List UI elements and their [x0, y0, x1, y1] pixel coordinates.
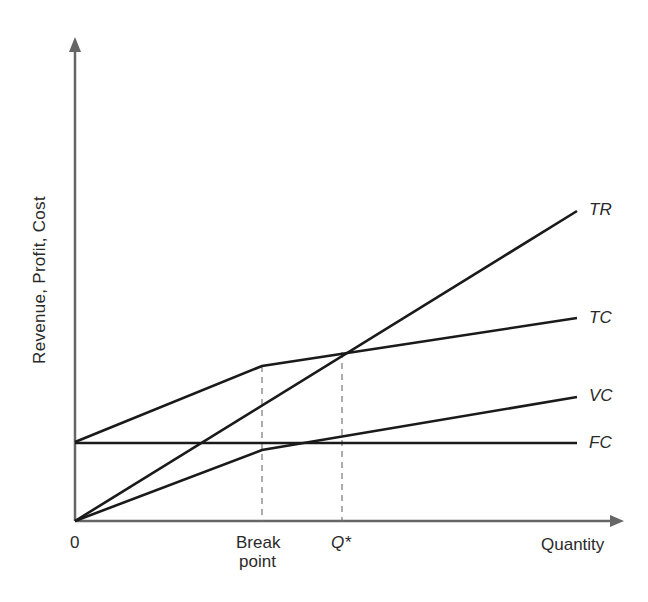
fc-label: FC [589, 433, 612, 453]
tc-label: TC [589, 308, 612, 328]
tr-line [75, 211, 577, 521]
y-axis-arrow-icon [69, 37, 81, 52]
vc-line [75, 397, 577, 521]
x-axis-label: Quantity [541, 535, 604, 555]
x-axis-arrow-icon [610, 515, 624, 527]
break-point-label-line2: point [239, 552, 276, 572]
q-star-label: Q* [331, 533, 351, 553]
break-point-label-line1: Break [236, 533, 280, 553]
vc-label: VC [589, 386, 613, 406]
tc-line [75, 318, 577, 442]
tr-label: TR [589, 200, 612, 220]
y-axis-label: Revenue, Profit, Cost [30, 196, 50, 364]
break-even-diagram [0, 0, 648, 602]
origin-label: 0 [70, 533, 79, 553]
